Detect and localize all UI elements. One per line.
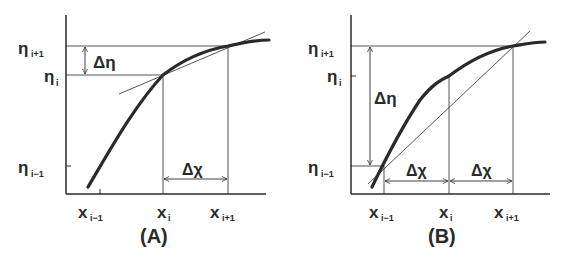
x-im1-sub: i−1 bbox=[381, 213, 394, 223]
delta-eta-label: Δη bbox=[93, 53, 116, 72]
eta-im1-sub: i−1 bbox=[321, 169, 334, 179]
panel-a: Δη Δχ η i+1 η i η i−1 x i−1 x i x i+1 (A… bbox=[18, 15, 269, 247]
eta-ip1-label: η bbox=[308, 39, 318, 58]
x-i-label: x bbox=[157, 203, 167, 222]
x-im1-label: x bbox=[78, 203, 88, 222]
eta-ip1-sub: i+1 bbox=[321, 49, 334, 59]
eta-i-sub: i bbox=[339, 78, 342, 88]
eta-ip1-sub: i+1 bbox=[31, 49, 44, 59]
x-i-sub: i bbox=[168, 213, 171, 223]
caption-b: (B) bbox=[428, 225, 456, 247]
caption-a: (A) bbox=[140, 225, 168, 247]
delta-x-left-label: Δχ bbox=[406, 162, 428, 179]
eta-i-label: η bbox=[44, 67, 54, 86]
x-ip1-label: x bbox=[210, 203, 220, 222]
x-im1-sub: i−1 bbox=[90, 213, 103, 223]
x-ip1-label: x bbox=[494, 203, 504, 222]
x-ip1-sub: i+1 bbox=[506, 213, 519, 223]
eta-i-label: η bbox=[327, 67, 337, 86]
delta-x-right-label: Δχ bbox=[471, 162, 493, 179]
delta-eta-label: Δη bbox=[374, 89, 397, 108]
eta-ip1-label: η bbox=[18, 39, 28, 58]
x-ip1-sub: i+1 bbox=[222, 213, 235, 223]
eta-im1-sub: i−1 bbox=[31, 169, 44, 179]
delta-x-label: Δχ bbox=[182, 161, 204, 178]
panel-b: Δη Δχ Δχ η i+1 η i η i−1 x i−1 x i x i+1… bbox=[308, 15, 550, 247]
eta-i-sub: i bbox=[56, 78, 59, 88]
finite-difference-diagram: Δη Δχ η i+1 η i η i−1 x i−1 x i x i+1 (A… bbox=[0, 0, 569, 259]
x-im1-label: x bbox=[369, 203, 379, 222]
eta-im1-label: η bbox=[308, 158, 318, 177]
x-i-sub: i bbox=[450, 213, 453, 223]
x-i-label: x bbox=[439, 203, 449, 222]
curve bbox=[372, 42, 545, 187]
eta-im1-label: η bbox=[18, 158, 28, 177]
